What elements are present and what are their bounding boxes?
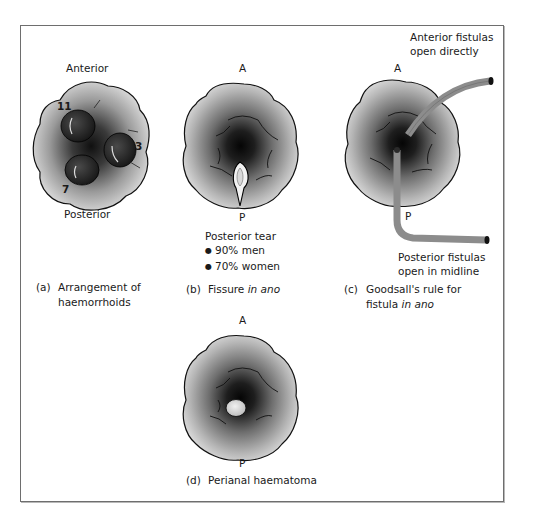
panel-b-caption-text: Fissure [208, 283, 248, 295]
anterior-fistula-note: Anterior fistulas open directly [410, 30, 493, 58]
haematoma [226, 400, 246, 417]
panel-c-anus [345, 77, 493, 244]
panel-a-posterior-label: Posterior [64, 208, 110, 221]
haemorrhoid-3-oclock [104, 133, 136, 167]
panel-b-anterior-label: A [239, 62, 246, 75]
panel-c-caption-line2-text: fistula [366, 298, 402, 310]
panel-d-caption-tag: (d) [186, 473, 208, 488]
panel-a-caption: (a)Arrangement of haemorrhoids [36, 280, 141, 310]
panel-b-caption-tag: (b) [186, 282, 208, 297]
panel-a-anus [33, 82, 149, 210]
posterior-fistula-note-line1: Posterior fistulas [398, 250, 485, 264]
panel-a-caption-tag: (a) [36, 280, 58, 295]
internal-opening [394, 147, 400, 153]
panel-c-caption: (c)Goodsall's rule for fistula in ano [344, 282, 461, 312]
anterior-fistula-note-line2: open directly [410, 44, 493, 58]
panel-a-caption-line2: haemorrhoids [36, 295, 141, 310]
fissure-note-item-men: 90% men [205, 243, 280, 259]
anterior-external-opening [489, 77, 494, 85]
panel-d-anus [183, 336, 298, 461]
posterior-fistula-note-line2: open in midline [398, 264, 485, 278]
panel-d-caption-text: Perianal haematoma [208, 474, 317, 486]
posterior-fistula-note: Posterior fistulas open in midline [398, 250, 485, 278]
panel-c-caption-line2-italic: in ano [402, 298, 434, 310]
position-7-label: 7 [62, 183, 69, 195]
haemorrhoid-7-oclock [65, 155, 99, 185]
fissure-note-title: Posterior tear [205, 229, 280, 243]
panel-a-anterior-label: Anterior [66, 62, 108, 75]
panel-b-anus [183, 83, 298, 208]
panel-c-caption-tag: (c) [344, 282, 366, 297]
position-11-label: 11 [57, 100, 72, 112]
posterior-external-opening [485, 236, 490, 244]
panel-b-caption-italic: in ano [248, 283, 280, 295]
panel-d-posterior-label: P [239, 457, 245, 470]
panel-d-caption: (d)Perianal haematoma [186, 473, 317, 488]
panel-c-posterior-label: P [405, 210, 411, 223]
panel-b-caption: (b)Fissure in ano [186, 282, 280, 297]
panel-d-anterior-label: A [239, 314, 246, 327]
panel-c-caption-line1: Goodsall's rule for [366, 283, 461, 295]
panel-c-anterior-label: A [394, 62, 401, 75]
panel-a-caption-line1: Arrangement of [58, 281, 141, 293]
position-3-label: 3 [135, 140, 142, 152]
panel-b-posterior-label: P [239, 211, 245, 224]
fissure-note: Posterior tear 90% men 70% women [205, 229, 280, 275]
fissure-note-item-women: 70% women [205, 259, 280, 275]
haemorrhoid-11-oclock [61, 110, 95, 142]
anterior-fistula-note-line1: Anterior fistulas [410, 30, 493, 44]
